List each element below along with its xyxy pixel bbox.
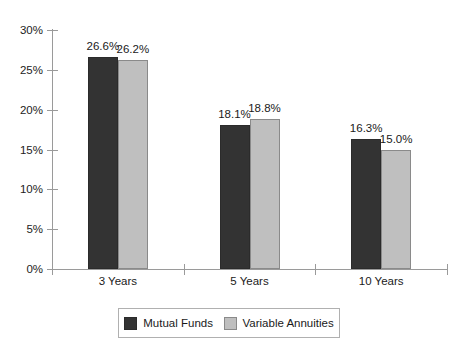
y-axis-tick bbox=[47, 150, 58, 151]
legend-label-variable-annuities: Variable Annuities bbox=[243, 317, 334, 329]
legend-swatch-icon-mutual-funds bbox=[124, 317, 137, 330]
legend-item-mutual-funds: Mutual Funds bbox=[124, 317, 213, 330]
bar-value-label: 15.0% bbox=[380, 133, 413, 145]
x-axis-category-label: 3 Years bbox=[99, 275, 137, 287]
y-axis-tick-label: 0% bbox=[0, 263, 43, 275]
y-axis-tick bbox=[47, 70, 58, 71]
bar-value-label: 26.2% bbox=[117, 43, 150, 55]
x-axis-tick bbox=[315, 264, 316, 275]
x-axis-tick bbox=[447, 264, 448, 275]
y-axis-tick-label: 25% bbox=[0, 64, 43, 76]
bar-10-years-variable-annuities bbox=[381, 150, 411, 270]
bar-value-label: 26.6% bbox=[87, 40, 120, 52]
legend-item-variable-annuities: Variable Annuities bbox=[224, 317, 334, 330]
x-axis-tick bbox=[184, 264, 185, 275]
bar-3-years-mutual-funds bbox=[88, 57, 118, 269]
x-axis-line bbox=[52, 269, 447, 270]
plot-area: 0%5%10%15%20%25%30% 26.6%26.2%18.1%18.8%… bbox=[0, 0, 462, 300]
y-axis-tick-label: 20% bbox=[0, 104, 43, 116]
y-axis-tick bbox=[47, 229, 58, 230]
y-axis-tick-label: 10% bbox=[0, 183, 43, 195]
y-axis-tick bbox=[47, 189, 58, 190]
bar-5-years-variable-annuities bbox=[250, 119, 280, 269]
bar-value-label: 16.3% bbox=[350, 122, 383, 134]
bar-value-label: 18.8% bbox=[248, 102, 281, 114]
legend-label-mutual-funds: Mutual Funds bbox=[143, 317, 213, 329]
bar-5-years-mutual-funds bbox=[220, 125, 250, 269]
x-axis-category-label: 10 Years bbox=[359, 275, 404, 287]
bar-3-years-variable-annuities bbox=[118, 60, 148, 269]
y-axis-tick bbox=[47, 110, 58, 111]
bar-10-years-mutual-funds bbox=[351, 139, 381, 269]
x-axis-category-label: 5 Years bbox=[230, 275, 268, 287]
y-axis-tick bbox=[47, 30, 58, 31]
bar-chart: 0%5%10%15%20%25%30% 26.6%26.2%18.1%18.8%… bbox=[0, 0, 462, 352]
y-axis-tick-label: 30% bbox=[0, 24, 43, 36]
x-axis-tick bbox=[52, 264, 53, 275]
bar-value-label: 18.1% bbox=[218, 108, 251, 120]
y-axis-tick-label: 5% bbox=[0, 223, 43, 235]
legend-swatch-icon-variable-annuities bbox=[224, 317, 237, 330]
y-axis-tick-label: 15% bbox=[0, 144, 43, 156]
chart-legend: Mutual Funds Variable Annuities bbox=[118, 308, 340, 338]
